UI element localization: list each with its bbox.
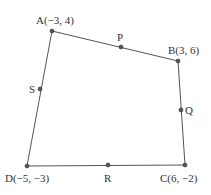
- midpoint-point-s: [38, 87, 42, 91]
- midpoint-label-q: Q: [185, 104, 193, 116]
- midpoint-label-p: P: [117, 31, 123, 43]
- quadrilateral-abcd: [27, 31, 185, 166]
- vertex-point-a: [50, 29, 54, 33]
- quadrilateral-diagram: A(−3, 4)B(3, 6)C(6, −2)D(−5, −3) PQRS: [0, 0, 211, 195]
- vertex-label-b: B(3, 6): [168, 44, 200, 57]
- vertex-point-c: [183, 163, 187, 167]
- midpoint-label-s: S: [29, 83, 35, 95]
- midpoint-point-q: [179, 108, 183, 112]
- vertex-label-c: C(6, −2): [160, 172, 198, 185]
- midpoint-point-p: [119, 45, 123, 49]
- vertex-point-d: [25, 164, 29, 168]
- midpoint-point-r: [106, 163, 110, 167]
- vertices: A(−3, 4)B(3, 6)C(6, −2)D(−5, −3): [5, 14, 200, 185]
- vertex-label-d: D(−5, −3): [5, 172, 50, 185]
- midpoint-label-r: R: [104, 172, 112, 184]
- vertex-point-b: [176, 59, 180, 63]
- vertex-label-a: A(−3, 4): [36, 14, 74, 27]
